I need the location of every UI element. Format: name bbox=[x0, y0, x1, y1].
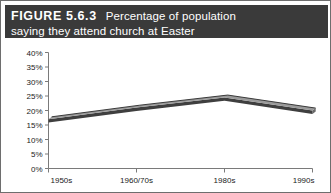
y-axis-tick-label: 15% bbox=[26, 121, 42, 130]
x-axis-tick-label: 1980s bbox=[214, 176, 236, 185]
figure-header-line-2: saying they attend church at Easter bbox=[11, 22, 328, 37]
y-axis-tick-label: 35% bbox=[26, 63, 42, 72]
x-axis-ticks bbox=[49, 169, 313, 173]
line-chart-svg: 0%5%10%15%20%25%30%35%40% 1950s1960/70s1… bbox=[1, 38, 331, 193]
y-axis-ticks bbox=[45, 53, 49, 169]
y-axis-tick-labels: 0%5%10%15%20%25%30%35%40% bbox=[26, 49, 42, 174]
x-axis-tick-labels: 1950s1960/70s1980s1990s bbox=[51, 176, 315, 185]
x-axis-tick-label: 1990s bbox=[293, 176, 315, 185]
figure-caption-line-2: saying they attend church at Easter bbox=[11, 25, 195, 37]
y-axis-tick-label: 5% bbox=[31, 150, 43, 159]
y-axis-tick-label: 40% bbox=[26, 49, 42, 58]
x-axis-tick-label: 1960/70s bbox=[120, 176, 153, 185]
y-axis-tick-label: 30% bbox=[26, 78, 42, 87]
x-axis-tick-label: 1950s bbox=[51, 176, 73, 185]
data-series-ribbon bbox=[49, 95, 316, 123]
y-axis-tick-label: 20% bbox=[26, 107, 42, 116]
chart-plot-area: 0%5%10%15%20%25%30%35%40% 1950s1960/70s1… bbox=[1, 38, 331, 193]
y-axis-tick-label: 0% bbox=[31, 165, 43, 174]
figure-header-bar: FIGURE 5.6.3Percentage of population say… bbox=[5, 5, 328, 38]
figure-caption-line-1: Percentage of population bbox=[106, 10, 236, 22]
figure-card: FIGURE 5.6.3Percentage of population say… bbox=[0, 0, 331, 193]
figure-header-line-1: FIGURE 5.6.3Percentage of population bbox=[11, 7, 328, 22]
y-axis-tick-label: 25% bbox=[26, 92, 42, 101]
y-axis-tick-label: 10% bbox=[26, 136, 42, 145]
figure-number-label: FIGURE 5.6.3 bbox=[11, 9, 97, 23]
